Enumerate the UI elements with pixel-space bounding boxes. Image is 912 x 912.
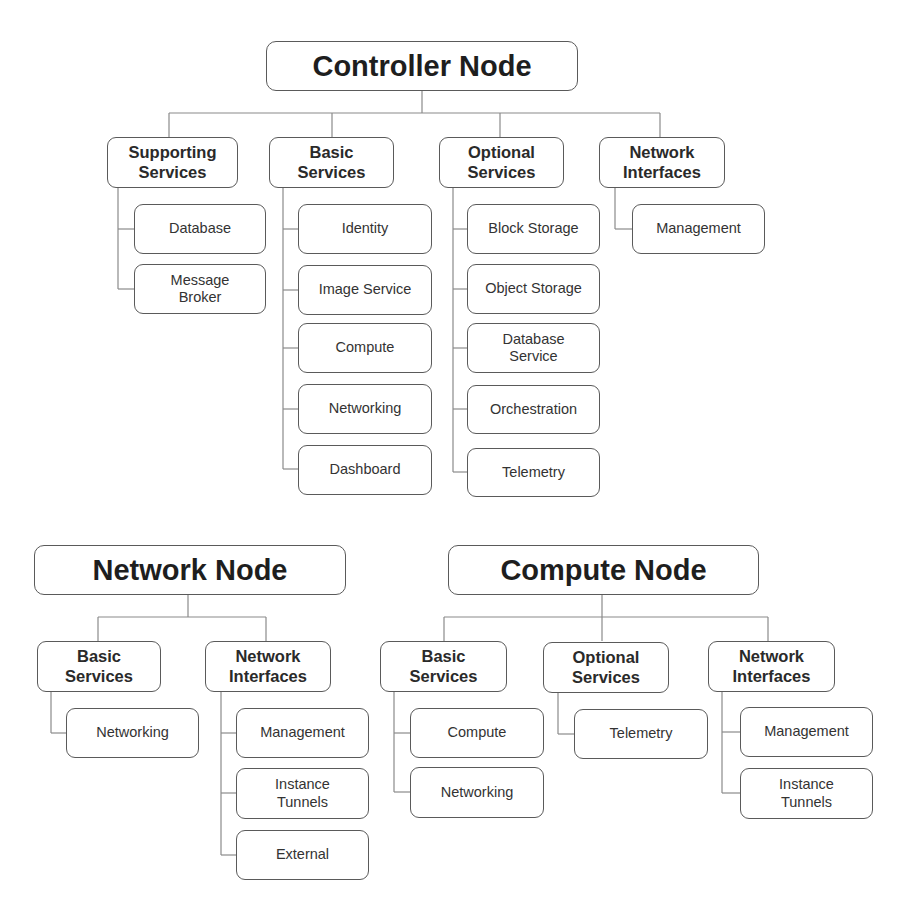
controller-networking-box: Networking: [298, 384, 432, 434]
controller-message-broker-box: Message Broker: [134, 264, 266, 314]
service-label: Message Broker: [165, 272, 235, 307]
category-label: Optional Services: [566, 648, 646, 688]
controller-database-service-box: Database Service: [467, 323, 600, 373]
category-label: Network Interfaces: [617, 143, 707, 183]
controller-block-storage-box: Block Storage: [467, 204, 600, 254]
service-label: External: [276, 846, 329, 863]
service-label: Compute: [448, 724, 507, 741]
service-label: Telemetry: [502, 464, 565, 481]
controller-dashboard-box: Dashboard: [298, 445, 432, 495]
service-label: Compute: [336, 339, 395, 356]
controller-orchestration-box: Orchestration: [467, 385, 600, 434]
service-label: Networking: [441, 784, 514, 801]
category-label: Network Interfaces: [223, 647, 313, 687]
network-network-interfaces-box: Network Interfaces: [205, 641, 331, 692]
controller-compute-box: Compute: [298, 323, 432, 373]
category-label: Basic Services: [409, 647, 479, 687]
service-label: Database: [169, 220, 231, 237]
service-label: Orchestration: [490, 401, 577, 418]
service-label: Instance Tunnels: [772, 776, 842, 811]
network-management-box: Management: [236, 708, 369, 758]
controller-identity-box: Identity: [298, 204, 432, 254]
controller-node-title: Controller Node: [312, 49, 531, 84]
controller-object-storage-box: Object Storage: [467, 264, 600, 314]
network-basic-services-box: Basic Services: [37, 641, 161, 692]
controller-database-box: Database: [134, 204, 266, 254]
service-label: Management: [260, 724, 345, 741]
service-label: Instance Tunnels: [268, 776, 338, 811]
compute-node-box: Compute Node: [448, 545, 759, 595]
network-networking-box: Networking: [66, 708, 199, 758]
compute-instance-tunnels-box: Instance Tunnels: [740, 768, 873, 819]
compute-networking-box: Networking: [410, 767, 544, 818]
category-label: Optional Services: [462, 143, 542, 183]
service-label: Management: [656, 220, 741, 237]
service-label: Networking: [96, 724, 169, 741]
controller-management-box: Management: [632, 204, 765, 254]
service-label: Database Service: [499, 331, 569, 366]
network-external-box: External: [236, 830, 369, 880]
controller-basic-services-box: Basic Services: [269, 137, 394, 188]
service-label: Management: [764, 723, 849, 740]
network-node-box: Network Node: [34, 545, 346, 595]
controller-image-service-box: Image Service: [298, 265, 432, 315]
category-label: Basic Services: [297, 143, 367, 183]
service-label: Image Service: [319, 281, 412, 298]
service-label: Identity: [342, 220, 389, 237]
compute-basic-services-box: Basic Services: [380, 641, 507, 692]
compute-management-box: Management: [740, 707, 873, 757]
controller-optional-services-box: Optional Services: [439, 137, 564, 188]
service-label: Dashboard: [330, 461, 401, 478]
network-node-title: Network Node: [93, 553, 288, 588]
service-label: Object Storage: [485, 280, 582, 297]
service-label: Telemetry: [610, 725, 673, 742]
controller-node-box: Controller Node: [266, 41, 578, 91]
category-label: Basic Services: [64, 647, 134, 687]
compute-telemetry-box: Telemetry: [574, 709, 708, 759]
network-instance-tunnels-box: Instance Tunnels: [236, 768, 369, 819]
category-label: Network Interfaces: [727, 647, 817, 687]
compute-optional-services-box: Optional Services: [543, 642, 669, 693]
service-label: Networking: [329, 400, 402, 417]
controller-supporting-services-box: Supporting Services: [107, 137, 238, 188]
compute-network-interfaces-box: Network Interfaces: [708, 641, 835, 692]
diagram-canvas: Controller Node Supporting Services Data…: [0, 0, 912, 912]
service-label: Block Storage: [488, 220, 578, 237]
category-label: Supporting Services: [128, 143, 218, 183]
controller-telemetry-box: Telemetry: [467, 448, 600, 497]
controller-network-interfaces-box: Network Interfaces: [599, 137, 725, 188]
compute-node-title: Compute Node: [500, 553, 706, 588]
compute-compute-box: Compute: [410, 708, 544, 758]
